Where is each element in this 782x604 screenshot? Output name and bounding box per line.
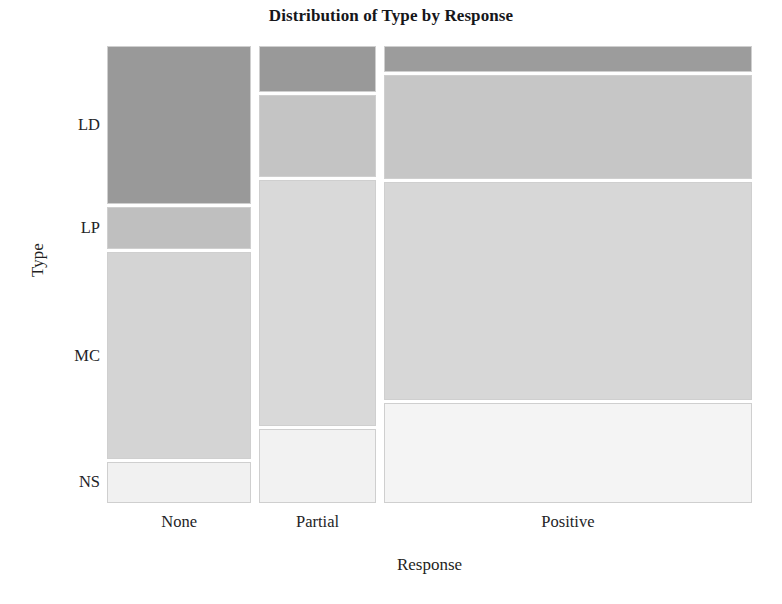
y-tick-mc: MC [48, 346, 100, 366]
mosaic-tile-partial-ns [259, 429, 375, 503]
mosaic-tile-positive-lp [384, 75, 752, 179]
mosaic-tile-partial-ld [259, 46, 375, 92]
mosaic-tile-none-lp [107, 207, 251, 249]
mosaic-column-partial [259, 46, 375, 503]
mosaic-column-none [107, 46, 251, 503]
mosaic-tile-none-ns [107, 462, 251, 503]
mosaic-tile-positive-ns [384, 403, 752, 503]
mosaic-tile-none-ld [107, 46, 251, 204]
x-axis-title: Response [107, 555, 752, 575]
page-title: Distribution of Type by Response [0, 6, 782, 26]
mosaic-tile-none-mc [107, 252, 251, 458]
plot-area [107, 46, 752, 503]
mosaic-tile-positive-mc [384, 182, 752, 400]
y-tick-ld: LD [48, 115, 100, 135]
y-tick-lp: LP [48, 218, 100, 238]
y-tick-ns: NS [48, 472, 100, 492]
x-tick-positive: Positive [478, 512, 658, 532]
mosaic-column-positive [384, 46, 752, 503]
mosaic-tile-partial-mc [259, 180, 375, 426]
mosaic-tile-partial-lp [259, 95, 375, 177]
mosaic-tile-positive-ld [384, 46, 752, 72]
mosaic-chart: Distribution of Type by Response Type Re… [0, 0, 782, 604]
x-tick-partial: Partial [228, 512, 408, 532]
